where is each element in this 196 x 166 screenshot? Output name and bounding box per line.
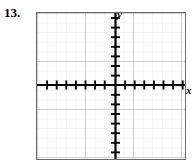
y-axis-label: y [117, 9, 122, 20]
grid-svg [37, 13, 185, 159]
grid-surface [37, 13, 185, 159]
problem-number: 13. [4, 6, 20, 20]
coordinate-plane [36, 12, 186, 160]
worksheet-problem: 13. [0, 0, 196, 166]
x-axis-label: x [186, 85, 192, 96]
